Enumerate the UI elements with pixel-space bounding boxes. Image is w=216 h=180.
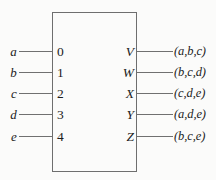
input-pin-3: 3 xyxy=(57,108,64,122)
output-label-z: (b,c,e) xyxy=(174,130,205,143)
output-pin-z: Z xyxy=(116,130,134,144)
input-wire-0 xyxy=(19,51,53,52)
output-wire-1 xyxy=(137,72,173,73)
output-label-x: (c,d,e) xyxy=(174,87,205,100)
input-wire-3 xyxy=(19,114,53,115)
output-label-v: (a,b,c) xyxy=(174,45,206,58)
input-label-d: d xyxy=(0,108,17,121)
input-pin-0: 0 xyxy=(57,45,64,59)
output-wire-3 xyxy=(137,114,173,115)
input-wire-4 xyxy=(19,136,53,137)
input-pin-4: 4 xyxy=(57,130,64,144)
input-wire-2 xyxy=(19,93,53,94)
input-label-e: e xyxy=(0,130,17,143)
input-label-a: a xyxy=(0,45,17,58)
output-wire-4 xyxy=(137,136,173,137)
input-pin-2: 2 xyxy=(57,87,64,101)
output-pin-x: X xyxy=(116,87,134,101)
output-pin-y: Y xyxy=(116,108,134,122)
output-wire-0 xyxy=(137,51,173,52)
output-label-w: (b,c,d) xyxy=(174,66,206,79)
output-pin-w: W xyxy=(116,66,134,80)
output-label-y: (a,d,e) xyxy=(174,108,206,121)
input-pin-1: 1 xyxy=(57,66,64,80)
block-diagram: a 0 V (a,b,c) b 1 W (b,c,d) c 2 X (c,d,e… xyxy=(0,0,216,180)
output-pin-v: V xyxy=(116,45,134,59)
input-label-c: c xyxy=(0,87,17,100)
input-wire-1 xyxy=(19,72,53,73)
output-wire-2 xyxy=(137,93,173,94)
input-label-b: b xyxy=(0,66,17,79)
